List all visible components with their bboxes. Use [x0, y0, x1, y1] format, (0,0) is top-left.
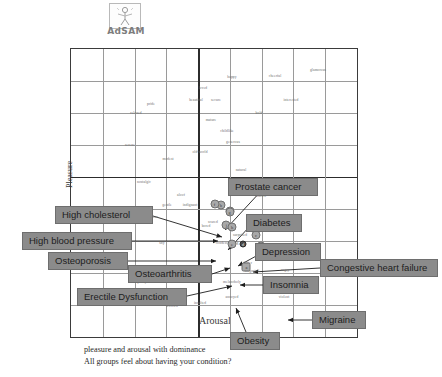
- emotion-word: secure: [211, 98, 221, 102]
- emotion-word: relaxed: [130, 111, 141, 115]
- emotion-word: nostalgic: [137, 180, 151, 184]
- emotion-word: gentle: [162, 203, 171, 207]
- emotion-word: surprised: [233, 233, 247, 237]
- emotion-word: old-world: [192, 150, 207, 154]
- caption-line-2: All groups feel about having your condit…: [84, 356, 231, 368]
- figure-caption: pleasure and arousal with dominance All …: [84, 344, 231, 368]
- data-point-marker[interactable]: h: [228, 223, 237, 232]
- emotion-word: shy: [159, 241, 164, 245]
- emotion-word: insulted: [194, 301, 206, 305]
- callout-congestive-heart-failure[interactable]: Congestive heart failure: [320, 259, 438, 277]
- emotion-word: serene: [125, 143, 135, 147]
- emotion-word: indignant: [183, 203, 197, 207]
- data-point-marker[interactable]: c: [251, 231, 260, 240]
- grid-line-vertical: [325, 49, 326, 337]
- grid-line-horizontal: [71, 113, 357, 114]
- callout-prostate-cancer[interactable]: Prostate cancer: [228, 178, 318, 196]
- callout-obesity[interactable]: Obesity: [230, 332, 280, 350]
- adsam-wordmark: AdSAM: [103, 26, 149, 36]
- data-point-marker[interactable]: f: [210, 200, 219, 209]
- emotion-word: mature: [206, 118, 217, 122]
- adsam-logo: AdSAM: [103, 3, 149, 37]
- grid-line-horizontal: [71, 145, 357, 146]
- emotion-word: childlike: [220, 129, 233, 133]
- callout-diabetes[interactable]: Diabetes: [246, 214, 302, 232]
- emotion-word: beautiful: [189, 98, 203, 102]
- callout-osteoarthritis[interactable]: Osteoarthritis: [128, 265, 212, 283]
- emotion-word: natural: [236, 168, 247, 172]
- emotion-word: loved: [199, 86, 207, 90]
- callout-high-cholesterol[interactable]: High cholesterol: [55, 206, 153, 224]
- emotion-word: aloof: [177, 193, 185, 197]
- emotion-word: bold: [256, 111, 263, 115]
- grid-line-vertical: [198, 49, 199, 337]
- callout-migraine[interactable]: Migraine: [312, 311, 366, 329]
- data-point-marker[interactable]: d: [240, 240, 247, 247]
- emotion-word: scared: [208, 220, 218, 224]
- emotion-word: bored: [202, 224, 211, 228]
- emotion-word: cheerful: [269, 74, 282, 78]
- emotion-word: violent: [279, 295, 290, 299]
- x-axis-label: Arousal: [199, 315, 231, 326]
- callout-high-blood-pressure[interactable]: High blood pressure: [22, 232, 132, 250]
- emotion-word: angry: [281, 268, 290, 272]
- callout-erectile-dysfunction[interactable]: Erectile Dysfunction: [77, 288, 187, 306]
- emotion-word: interested: [284, 98, 299, 102]
- emotion-word: generous: [226, 140, 240, 144]
- emotion-word: happy: [227, 75, 236, 79]
- callout-depression[interactable]: Depression: [255, 243, 321, 261]
- grid-line-horizontal: [71, 273, 357, 274]
- callout-insomnia[interactable]: Insomnia: [263, 276, 319, 294]
- emotion-word: annoyed: [226, 295, 239, 299]
- callout-osteoporosis[interactable]: Osteoporosis: [48, 252, 128, 270]
- emotion-word: pride: [147, 102, 155, 106]
- emotion-word: glamorous: [310, 68, 326, 72]
- caption-line-1: pleasure and arousal with dominance: [84, 344, 231, 356]
- grid-line-horizontal: [71, 81, 357, 82]
- emotion-word: melancholy: [223, 280, 241, 284]
- data-point-marker[interactable]: a: [242, 263, 251, 272]
- data-point-marker[interactable]: g: [225, 207, 234, 216]
- data-point-marker[interactable]: e: [228, 239, 237, 248]
- emotion-word: modest: [163, 157, 174, 161]
- y-axis-label: Pleasure: [65, 161, 74, 188]
